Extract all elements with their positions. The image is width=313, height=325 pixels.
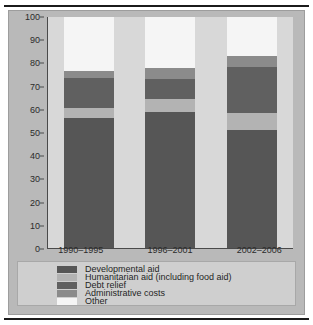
y-axis-tick: 10 xyxy=(30,221,40,230)
bar-segment xyxy=(227,113,277,130)
legend-item: Humanitarian aid (including food aid) xyxy=(18,273,295,281)
y-axis-tickmark xyxy=(40,156,44,157)
bar-segment xyxy=(64,118,114,249)
y-axis-tick: 60 xyxy=(30,105,40,114)
legend-swatch xyxy=(57,274,77,281)
x-axis-labels: 1990–19951996–20012002–2006 xyxy=(36,245,304,255)
bar-segment xyxy=(64,78,114,108)
y-axis-tick: 80 xyxy=(30,59,40,68)
y-axis-tick: 20 xyxy=(30,198,40,207)
y-axis-tick: 30 xyxy=(30,175,40,184)
x-axis-label-1: 1990–1995 xyxy=(41,245,121,255)
y-axis-tickmark xyxy=(40,109,44,110)
bar-segment xyxy=(145,99,195,112)
figure-panel: 0102030405060708090100 1990–19951996–200… xyxy=(8,10,305,315)
y-axis-tick: 90 xyxy=(30,36,40,45)
y-axis-tick: 70 xyxy=(30,82,40,91)
y-axis-tickmark xyxy=(40,40,44,41)
plot-area: 0102030405060708090100 xyxy=(21,17,293,249)
chart-screenshot: 0102030405060708090100 1990–19951996–200… xyxy=(0,0,313,325)
y-axis-tickmark xyxy=(40,63,44,64)
y-axis-tickmark xyxy=(40,202,44,203)
legend-swatch xyxy=(57,282,77,289)
legend-label: Other xyxy=(85,297,108,306)
bar-segment xyxy=(145,68,195,80)
y-axis-tick: 100 xyxy=(25,13,40,22)
bar-segment xyxy=(227,17,277,56)
bar-group xyxy=(48,17,293,248)
legend-item: Administrative costs xyxy=(18,290,295,298)
legend-swatch xyxy=(57,290,77,297)
x-axis-label-2: 1996–2001 xyxy=(130,245,210,255)
bar-segment xyxy=(64,71,114,78)
x-axis-label-3: 2002–2006 xyxy=(219,245,299,255)
y-axis-tick: 40 xyxy=(30,152,40,161)
legend-swatch xyxy=(57,266,77,273)
y-axis: 0102030405060708090100 xyxy=(21,17,47,249)
bar-2 xyxy=(145,17,195,248)
legend-swatch xyxy=(57,298,77,305)
y-axis-tickmark xyxy=(40,179,44,180)
bar-segment xyxy=(227,130,277,248)
bar-3 xyxy=(227,17,277,248)
legend-item: Other xyxy=(18,298,295,306)
top-rule xyxy=(4,5,309,7)
bottom-rule xyxy=(4,318,309,320)
bar-segment xyxy=(227,67,277,113)
bar-segment xyxy=(145,112,195,248)
y-axis-tickmark xyxy=(40,17,44,18)
y-axis-tickmark xyxy=(40,225,44,226)
y-axis-tickmark xyxy=(40,133,44,134)
bar-segment xyxy=(64,17,114,71)
bar-segment xyxy=(227,56,277,66)
bar-1 xyxy=(64,17,114,248)
bar-segment xyxy=(145,79,195,99)
chart-legend: Developmental aidHumanitarian aid (inclu… xyxy=(17,261,296,306)
bar-segment xyxy=(145,17,195,68)
bar-segment xyxy=(64,108,114,117)
y-axis-tickmark xyxy=(40,86,44,87)
y-axis-tick: 50 xyxy=(30,129,40,138)
